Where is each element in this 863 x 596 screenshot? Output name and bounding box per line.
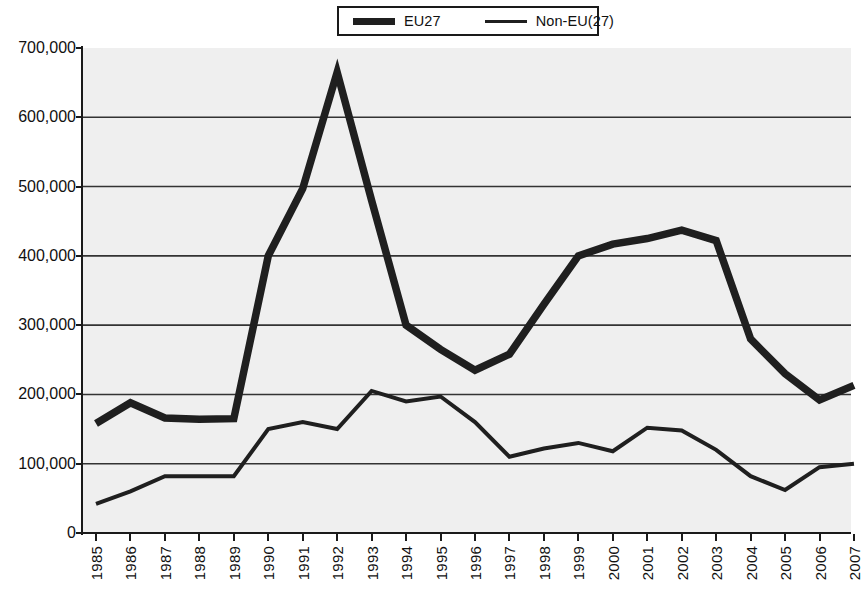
x-tick-mark <box>164 534 166 541</box>
x-tick-label: 2005 <box>777 546 794 580</box>
x-tick-label: 1999 <box>570 546 587 580</box>
x-tick-mark <box>681 534 683 541</box>
y-tick-label: 100,000 <box>2 455 76 473</box>
y-tick-label: 700,000 <box>2 39 76 57</box>
x-tick-label: 1994 <box>398 546 415 580</box>
x-tick-mark <box>612 534 614 541</box>
legend-entry-non-eu27: Non-EU(27) <box>485 8 614 34</box>
legend-swatch-eu27-icon <box>353 18 395 25</box>
y-tick-mark <box>76 255 83 257</box>
x-tick-mark <box>95 534 97 541</box>
plot-area <box>82 48 851 533</box>
y-axis-line <box>81 46 83 535</box>
series-line-eu27 <box>96 72 854 423</box>
x-tick-label: 1987 <box>157 546 174 580</box>
y-tick-label: 500,000 <box>2 178 76 196</box>
x-tick-label: 2003 <box>708 546 725 580</box>
x-tick-mark <box>853 534 855 541</box>
x-tick-label: 2006 <box>812 546 829 580</box>
x-tick-label: 1992 <box>329 546 346 580</box>
y-tick-label: 600,000 <box>2 108 76 126</box>
x-tick-mark <box>129 534 131 541</box>
x-tick-label: 1986 <box>122 546 139 580</box>
legend-entry-eu27: EU27 <box>353 8 441 34</box>
x-tick-label: 2007 <box>846 546 863 580</box>
y-tick-label: 300,000 <box>2 316 76 334</box>
x-tick-mark <box>543 534 545 541</box>
legend-label-eu27: EU27 <box>404 13 441 29</box>
y-axis-labels: 0100,000200,000300,000400,000500,000600,… <box>0 0 76 596</box>
x-tick-mark <box>440 534 442 541</box>
gridlines <box>82 48 851 464</box>
x-tick-mark <box>233 534 235 541</box>
x-tick-mark <box>198 534 200 541</box>
series-line-non-eu-27 <box>96 391 854 504</box>
y-tick-label: 200,000 <box>2 385 76 403</box>
x-axis-labels: 1985198619871988198919901991199219931994… <box>0 534 851 596</box>
y-tick-label: 400,000 <box>2 247 76 265</box>
y-tick-mark <box>76 116 83 118</box>
x-tick-mark <box>336 534 338 541</box>
legend-label-non-eu27: Non-EU(27) <box>536 13 614 29</box>
x-tick-mark <box>302 534 304 541</box>
y-tick-mark <box>76 47 83 49</box>
legend-swatch-non-eu27-icon <box>485 20 527 23</box>
x-tick-label: 1993 <box>364 546 381 580</box>
x-tick-label: 2001 <box>639 546 656 580</box>
x-tick-label: 1985 <box>88 546 105 580</box>
x-tick-mark <box>750 534 752 541</box>
y-tick-mark <box>76 393 83 395</box>
x-tick-label: 1991 <box>295 546 312 580</box>
x-tick-mark <box>474 534 476 541</box>
x-tick-mark <box>577 534 579 541</box>
x-tick-mark <box>371 534 373 541</box>
data-series <box>96 72 854 504</box>
x-tick-label: 1989 <box>226 546 243 580</box>
x-tick-label: 1998 <box>536 546 553 580</box>
y-tick-mark <box>76 186 83 188</box>
x-tick-label: 1990 <box>260 546 277 580</box>
x-tick-label: 1995 <box>433 546 450 580</box>
x-tick-label: 2004 <box>743 546 760 580</box>
x-tick-mark <box>508 534 510 541</box>
x-tick-label: 1996 <box>467 546 484 580</box>
x-tick-label: 2000 <box>605 546 622 580</box>
x-tick-mark <box>784 534 786 541</box>
x-tick-mark <box>267 534 269 541</box>
x-tick-mark <box>405 534 407 541</box>
x-tick-label: 1997 <box>501 546 518 580</box>
x-tick-mark <box>819 534 821 541</box>
x-tick-label: 2002 <box>674 546 691 580</box>
x-tick-label: 1988 <box>191 546 208 580</box>
chart-legend: EU27 Non-EU(27) <box>337 6 599 36</box>
plot-svg <box>82 48 851 533</box>
x-tick-mark <box>715 534 717 541</box>
y-tick-mark <box>76 324 83 326</box>
x-tick-mark <box>646 534 648 541</box>
y-tick-mark <box>76 463 83 465</box>
